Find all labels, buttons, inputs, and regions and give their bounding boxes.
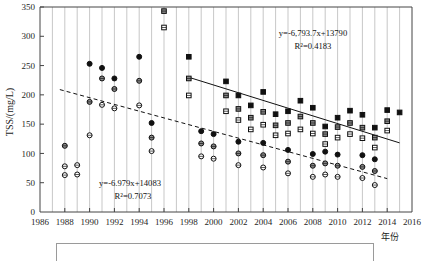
point-filled-circle [372, 157, 377, 162]
point-filled-circle [112, 76, 117, 81]
xtick-label-1986: 1986 [31, 217, 50, 227]
point-filled-circle [360, 153, 365, 158]
xtick-label-2008: 2008 [304, 217, 323, 227]
trendline-upper-fit [189, 77, 400, 143]
point-filled-square [335, 115, 340, 120]
point-filled-circle [137, 54, 142, 59]
point-filled-circle [236, 139, 241, 144]
scatter-plot: 0501001502002503003501986198819901992199… [0, 0, 422, 261]
xtick-label-1996: 1996 [155, 217, 174, 227]
point-filled-square [286, 109, 291, 114]
point-filled-square [249, 103, 254, 108]
upper-fit-equation: y=-6,793.7x+13790 [279, 28, 347, 38]
ytick-label-350: 350 [22, 2, 36, 12]
point-filled-circle [310, 152, 315, 157]
xtick-label-2002: 2002 [229, 217, 247, 227]
point-filled-circle [323, 149, 328, 154]
ytick-label-150: 150 [22, 119, 36, 129]
ytick-label-50: 50 [26, 178, 36, 188]
x-axis-label: 年份 [381, 231, 399, 242]
point-filled-square [397, 110, 402, 115]
xtick-label-1998: 1998 [180, 217, 199, 227]
point-filled-circle [199, 129, 204, 134]
point-filled-circle [335, 152, 340, 157]
lower-fit-equation: y=-6.979x+14083 [99, 178, 161, 188]
ytick-label-300: 300 [22, 31, 36, 41]
xtick-label-1990: 1990 [81, 217, 100, 227]
point-filled-square [261, 90, 266, 95]
point-filled-square [348, 108, 353, 113]
legend-box [56, 243, 374, 261]
ytick-label-250: 250 [22, 61, 36, 71]
point-filled-circle [149, 120, 154, 125]
xtick-label-2010: 2010 [329, 217, 348, 227]
xtick-label-1988: 1988 [56, 217, 75, 227]
xtick-label-2000: 2000 [205, 217, 224, 227]
point-filled-square [236, 93, 241, 98]
point-filled-circle [211, 132, 216, 137]
point-filled-square [311, 105, 316, 110]
point-filled-square [360, 112, 365, 117]
xtick-label-2012: 2012 [353, 217, 371, 227]
ytick-label-0: 0 [31, 207, 36, 217]
xtick-label-1994: 1994 [130, 217, 149, 227]
upper-fit-r2: R²=0.4183 [295, 41, 332, 51]
point-filled-square [298, 98, 303, 103]
point-filled-square [273, 112, 278, 117]
xtick-label-2016: 2016 [403, 217, 422, 227]
lower-fit-r2: R²=0.7073 [115, 191, 152, 201]
point-filled-circle [87, 61, 92, 66]
point-filled-circle [100, 65, 105, 70]
point-filled-circle [261, 140, 266, 145]
point-filled-square [373, 125, 378, 130]
xtick-label-2004: 2004 [254, 217, 273, 227]
xtick-label-2014: 2014 [378, 217, 397, 227]
xtick-label-1992: 1992 [105, 217, 123, 227]
point-filled-square [323, 124, 328, 129]
point-filled-circle [286, 147, 291, 152]
point-filled-square [224, 79, 229, 84]
point-filled-square [385, 108, 390, 113]
xtick-label-2006: 2006 [279, 217, 298, 227]
point-filled-square [187, 54, 192, 59]
y-axis-label: TSS/(mg/L) [4, 88, 16, 136]
ytick-label-100: 100 [22, 149, 36, 159]
ytick-label-200: 200 [22, 90, 36, 100]
chart-root: 0501001502002503003501986198819901992199… [0, 0, 422, 261]
